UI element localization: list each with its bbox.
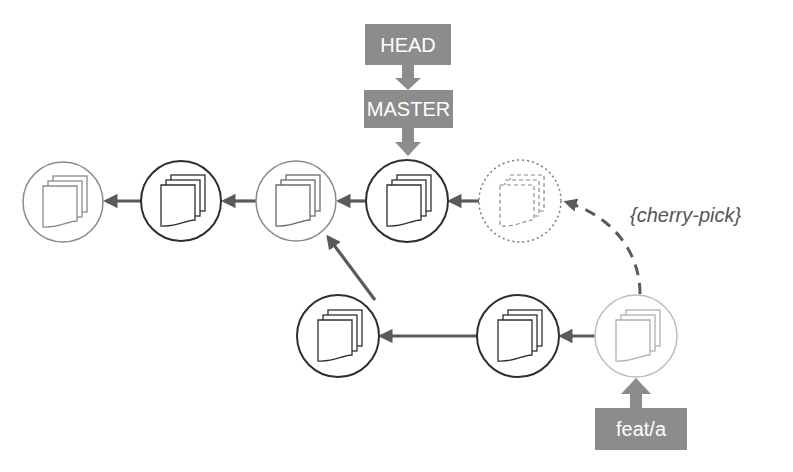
cherry-pick-dashed-arrow: [566, 202, 640, 294]
commit-node-c4: [366, 160, 448, 242]
feature-ref-arrow: [621, 378, 651, 409]
cherry-pick-annotation: {cherry-pick}: [630, 204, 741, 226]
git-cherry-pick-diagram: HEAD MASTER {cherry-pick}: [0, 0, 793, 472]
commit-node-c5-cherry-picked: [479, 160, 561, 242]
commit-node-b3: [595, 295, 677, 377]
commit-node-c1: [23, 162, 103, 242]
commit-node-b2: [477, 295, 559, 377]
feature-ref: feat/a: [595, 408, 687, 450]
master-ref: MASTER: [364, 90, 453, 128]
head-to-master-arrow: [395, 65, 421, 90]
head-ref: HEAD: [365, 24, 451, 65]
commit-node-b1: [297, 295, 379, 377]
head-ref-label: HEAD: [380, 34, 436, 56]
feature-ref-label: feat/a: [616, 418, 667, 440]
master-to-commit-arrow: [395, 128, 421, 156]
arrow-b1-to-c3: [328, 237, 375, 300]
commit-node-c2: [141, 161, 221, 241]
master-ref-label: MASTER: [367, 98, 450, 120]
commit-node-c3: [256, 161, 336, 241]
